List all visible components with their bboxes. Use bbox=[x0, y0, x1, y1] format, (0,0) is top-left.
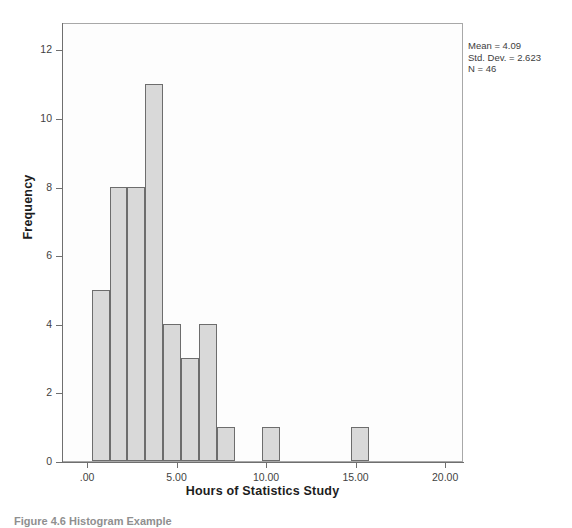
y-axis-line bbox=[62, 23, 63, 463]
histogram-bar bbox=[199, 324, 217, 461]
histogram-bar bbox=[110, 187, 128, 461]
x-axis-tick-label: 15.00 bbox=[326, 471, 386, 483]
x-axis-line bbox=[62, 462, 464, 463]
x-axis-title: Hours of Statistics Study bbox=[62, 484, 463, 498]
figure-caption: Figure 4.6 Histogram Example bbox=[14, 515, 172, 527]
x-axis-tick bbox=[266, 462, 267, 468]
y-axis-tick-label: 12 bbox=[0, 43, 52, 55]
y-axis-tick bbox=[56, 256, 62, 257]
x-axis-tick-label: .00 bbox=[57, 471, 117, 483]
x-axis-tick-label: 5.00 bbox=[147, 471, 207, 483]
histogram-bar bbox=[181, 358, 199, 461]
histogram-bar bbox=[127, 187, 145, 461]
y-axis-tick bbox=[56, 393, 62, 394]
mean-value: Mean = 4.09 bbox=[468, 40, 541, 52]
plot-area bbox=[62, 23, 463, 462]
x-axis-tick-label: 20.00 bbox=[415, 471, 475, 483]
x-axis-tick bbox=[177, 462, 178, 468]
n-value: N = 46 bbox=[468, 63, 541, 75]
y-axis-tick-label: 4 bbox=[0, 318, 52, 330]
y-axis-tick bbox=[56, 462, 62, 463]
histogram-bars bbox=[63, 24, 462, 461]
histogram-figure: .005.0010.0015.0020.00 024681012 Hours o… bbox=[0, 0, 572, 528]
x-axis-tick bbox=[356, 462, 357, 468]
histogram-bar bbox=[145, 84, 163, 461]
std-dev-value: Std. Dev. = 2.623 bbox=[468, 52, 541, 64]
x-axis-tick bbox=[445, 462, 446, 468]
x-axis-tick-label: 10.00 bbox=[236, 471, 296, 483]
histogram-bar bbox=[217, 427, 235, 461]
y-axis-tick bbox=[56, 50, 62, 51]
histogram-bar bbox=[92, 290, 110, 461]
statistics-annotation: Mean = 4.09 Std. Dev. = 2.623 N = 46 bbox=[468, 40, 541, 75]
y-axis-tick-label: 0 bbox=[0, 455, 52, 467]
histogram-bar bbox=[163, 324, 181, 461]
histogram-bar bbox=[351, 427, 369, 461]
x-axis-tick bbox=[87, 462, 88, 468]
y-axis-tick bbox=[56, 188, 62, 189]
y-axis-tick-label: 2 bbox=[0, 386, 52, 398]
y-axis-tick bbox=[56, 119, 62, 120]
y-axis-title: Frequency bbox=[21, 97, 35, 317]
y-axis-tick bbox=[56, 325, 62, 326]
histogram-bar bbox=[262, 427, 280, 461]
